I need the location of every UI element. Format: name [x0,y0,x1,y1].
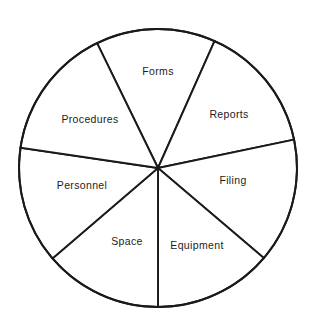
pie-diagram-container: FormsReportsFilingEquipmentSpacePersonne… [0,0,313,328]
pie-slice-label-equipment: Equipment [170,239,223,251]
pie-slice-label-personnel: Personnel [57,179,107,191]
pie-slice-label-reports: Reports [209,108,248,120]
pie-slice-label-forms: Forms [142,65,174,77]
pie-slice-label-procedures: Procedures [61,113,118,125]
pie-slice-label-filing: Filing [219,174,246,186]
pie-slice-label-space: Space [111,235,143,247]
pie-chart: FormsReportsFilingEquipmentSpacePersonne… [0,0,313,328]
